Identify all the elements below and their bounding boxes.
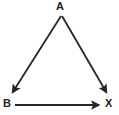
vertex-label-x: X — [105, 98, 112, 109]
vertex-label-b: B — [3, 98, 11, 109]
triangle-vector-svg — [0, 0, 119, 115]
arrow-a-to-x — [62, 16, 107, 93]
vertex-label-a: A — [56, 1, 64, 12]
diagram-canvas: A B X — [0, 0, 119, 115]
arrow-a-to-b — [13, 16, 62, 93]
